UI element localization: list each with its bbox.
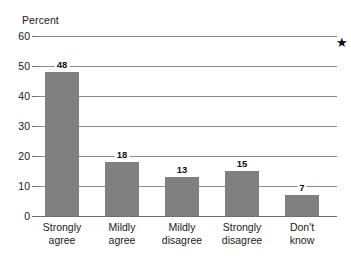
x-axis-category-label-line: know [290,234,315,247]
y-axis-tick [32,126,38,127]
x-axis-category-label: Mildlydisagree [162,221,202,246]
y-axis-tick-label: 30 [0,120,30,132]
y-axis-tick-label: 10 [0,180,30,192]
plot-area: 010203040506048Stronglyagree18Mildlyagre… [0,0,351,265]
x-axis-category-label-line: Mildly [109,221,136,234]
y-axis-tick [32,36,38,37]
y-axis-tick-label-wrap: 0 [0,216,30,217]
x-axis-category-label-line: Don't [290,221,315,234]
y-axis-tick [32,216,38,217]
bar [45,72,79,216]
y-axis-tick-label: 60 [0,30,30,42]
y-axis-tick-label: 40 [0,90,30,102]
x-axis-category-label: Stronglydisagree [222,221,262,246]
x-axis-category-label-line: disagree [222,234,262,247]
x-axis-baseline [38,216,337,217]
bar [225,171,259,216]
bar [285,195,319,216]
bar [165,177,199,216]
y-axis-tick-label-wrap: 30 [0,126,30,127]
y-axis-tick [32,66,38,67]
x-axis-category-label: Mildlyagree [109,221,136,246]
y-axis-tick [32,186,38,187]
x-axis-category-label: Don'tknow [290,221,315,246]
x-axis-category-label-line: agree [43,234,82,247]
x-axis-category-label-line: agree [109,234,136,247]
x-axis-category-label-line: Strongly [222,221,262,234]
bar-value-label: 15 [235,158,250,169]
y-axis-tick-label-wrap: 50 [0,66,30,67]
y-axis-tick-label: 50 [0,60,30,72]
y-axis-tick-label-wrap: 10 [0,186,30,187]
bar-value-label: 13 [175,164,190,175]
y-axis-tick-label: 20 [0,150,30,162]
x-axis-category-label-line: disagree [162,234,202,247]
bar-value-label: 18 [115,149,130,160]
y-axis-tick-label-wrap: 20 [0,156,30,157]
y-axis-tick-label-wrap: 40 [0,96,30,97]
y-axis-tick-label: 0 [0,210,30,222]
x-axis-category-label-line: Strongly [43,221,82,234]
y-axis-tick [32,96,38,97]
gridline [38,96,337,97]
bar [105,162,139,216]
bar-chart: Percent 010203040506048Stronglyagree18Mi… [0,0,351,265]
y-axis-tick [32,156,38,157]
gridline [38,156,337,157]
y-axis-tick-label-wrap: 60 [0,36,30,37]
x-axis-category-label: Stronglyagree [43,221,82,246]
bar-value-label: 7 [297,182,306,193]
gridline [38,126,337,127]
x-axis-category-label-line: Mildly [162,221,202,234]
gridline [38,66,337,67]
star-icon: ★ [336,36,348,49]
gridline [38,36,337,37]
bar-value-label: 48 [55,59,70,70]
